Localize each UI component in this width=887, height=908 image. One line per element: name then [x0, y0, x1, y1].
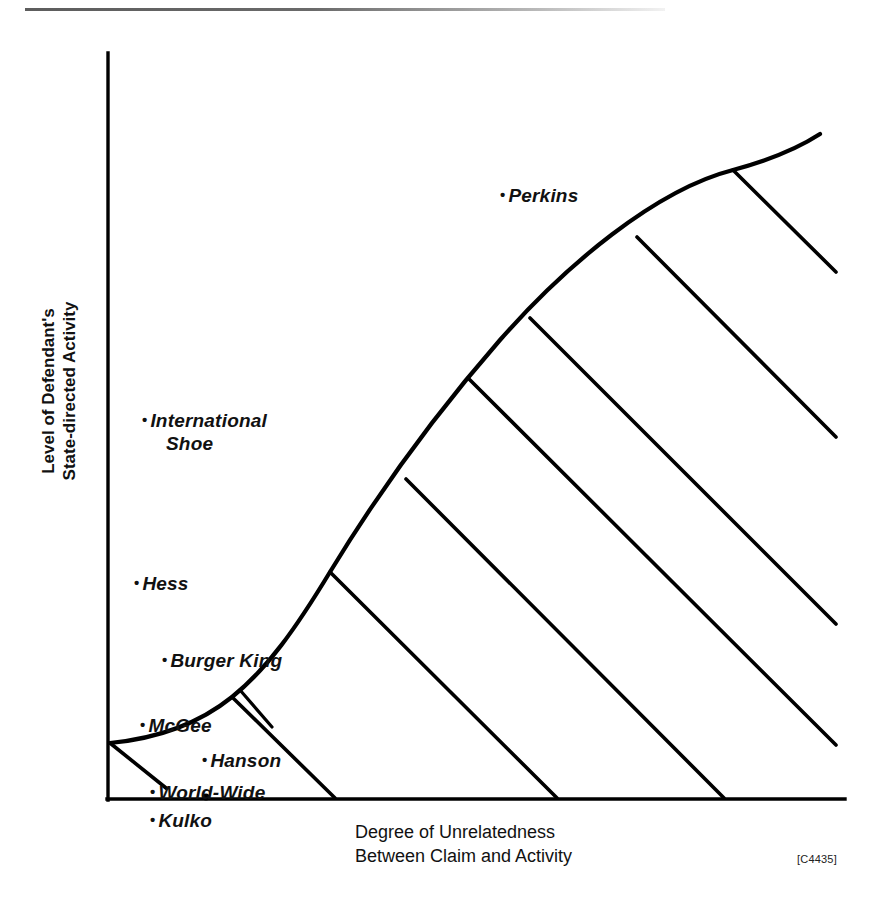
- marker-dot-icon: •: [134, 574, 139, 591]
- marker-dot-icon: •: [140, 716, 145, 733]
- marker-dot-icon: •: [150, 811, 155, 828]
- hanson-leader-line: [240, 690, 272, 727]
- case-label-perkins-text: Perkins: [508, 185, 578, 206]
- marker-dot-icon: •: [162, 651, 167, 668]
- hatch-line-5: [468, 378, 836, 745]
- case-label-burger-king: •Burger King: [140, 625, 282, 695]
- case-label-kulko-text: Kulko: [158, 810, 212, 831]
- figure-code: [C4435]: [797, 853, 837, 865]
- case-label-hess: •Hess: [112, 548, 189, 618]
- marker-dot-icon: •: [500, 186, 505, 203]
- case-label-burger-king-text: Burger King: [170, 650, 282, 671]
- case-label-kulko: •Kulko: [128, 785, 212, 855]
- figure-root: •Perkins •InternationalShoe •Hess •Burge…: [0, 0, 887, 908]
- case-label-international-shoe-line1: International: [150, 410, 267, 431]
- case-label-international-shoe-line2: Shoe: [120, 432, 267, 455]
- page-top-rule: [25, 8, 665, 11]
- x-axis-title: Degree of Unrelatedness Between Claim an…: [355, 820, 572, 868]
- case-label-perkins: •Perkins: [478, 160, 578, 230]
- marker-dot-icon: •: [142, 411, 147, 428]
- case-label-hess-text: Hess: [142, 573, 188, 594]
- hatch-line-7: [637, 237, 836, 437]
- hatch-line-3: [330, 572, 557, 798]
- hatch-line-6: [530, 318, 836, 624]
- y-axis-title: Level of Defendant's State-directed Acti…: [38, 271, 80, 511]
- case-label-international-shoe: •InternationalShoe: [120, 385, 267, 501]
- hatch-line-4: [406, 479, 724, 798]
- hatch-line-8: [733, 170, 836, 272]
